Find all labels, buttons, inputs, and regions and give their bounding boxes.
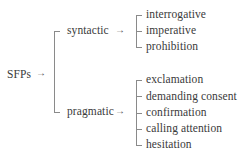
root-arrow-icon: → bbox=[36, 67, 46, 79]
leaf-confirmation: confirmation bbox=[146, 105, 207, 119]
branch-label-syntactic: syntactic bbox=[67, 23, 109, 37]
leaf-imperative: imperative bbox=[146, 23, 196, 37]
branch-label-pragmatic: pragmatic bbox=[67, 104, 114, 118]
main-bracket-tick-top bbox=[54, 31, 60, 32]
syntactic-tick bbox=[136, 47, 142, 48]
pragmatic-tick bbox=[136, 80, 142, 81]
leaf-demanding-consent: demanding consent bbox=[146, 89, 237, 103]
main-bracket-line bbox=[54, 31, 55, 113]
syntactic-arrow-icon: → bbox=[115, 24, 125, 36]
pragmatic-tick bbox=[136, 129, 142, 130]
root-label: SFPs bbox=[7, 67, 31, 81]
leaf-prohibition: prohibition bbox=[146, 39, 198, 53]
leaf-hesitation: hesitation bbox=[146, 137, 192, 151]
pragmatic-tick bbox=[136, 96, 142, 97]
syntactic-tick bbox=[136, 31, 142, 32]
leaf-interrogative: interrogative bbox=[146, 7, 206, 21]
pragmatic-arrow-icon: → bbox=[115, 105, 125, 117]
pragmatic-tick bbox=[136, 113, 142, 114]
main-bracket-tick-bottom bbox=[54, 112, 60, 113]
leaf-exclamation: exclamation bbox=[146, 72, 203, 86]
leaf-calling-attention: calling attention bbox=[146, 121, 222, 135]
syntactic-tick bbox=[136, 15, 142, 16]
pragmatic-tick bbox=[136, 145, 142, 146]
